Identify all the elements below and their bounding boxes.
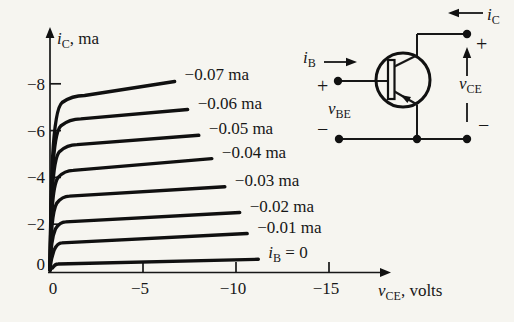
y-axis-title: iC, ma [57,29,99,51]
collector-lead [395,56,417,67]
curve-label: −0.04 ma [222,143,287,162]
minus-sign-left: − [317,118,328,140]
x-tick-label: −10 [220,279,247,298]
top-right-terminal-dot [463,30,471,38]
characteristic-curve [50,259,258,270]
transistor-base-bar [388,60,395,99]
curve-label: −0.03 ma [235,171,300,190]
vce-up-arrowhead-icon [463,47,471,58]
characteristic-curve [50,187,225,270]
y-tick-label: −4 [27,168,46,187]
bottom-right-terminal-dot [463,135,471,143]
x-tick-label: −15 [313,279,340,298]
bottom-left-terminal-dot [335,135,343,143]
curve-label: −0.07 ma [185,65,250,84]
base-terminal-dot [334,77,342,85]
y-tick-label: −6 [27,122,45,141]
y-origin-label: 0 [37,255,46,274]
transistor-circuit-diagram: iC iB + vBE − + vCE − [303,5,500,143]
plus-sign-top-right: + [476,33,487,55]
ic-label: iC [487,5,500,27]
curve-label: −0.02 ma [250,197,315,216]
transistor-characteristics-figure: −5−10−150−2−4−6−80iC, mavCE, volts−0.07 … [0,0,514,322]
x-origin-label: 0 [49,279,58,298]
curve-label: iB = 0 [268,243,307,265]
x-axis-arrowhead-icon [380,268,391,277]
y-tick-label: −2 [27,215,45,234]
figure-canvas: −5−10−150−2−4−6−80iC, mavCE, volts−0.07 … [0,0,514,322]
characteristic-curve [50,135,199,270]
y-tick-label: −8 [27,75,45,94]
x-tick-label: −5 [131,279,149,298]
vbe-label: vBE [328,99,351,121]
ic-left-arrowhead-icon [448,9,459,17]
curve-label: −0.06 ma [198,94,263,113]
x-axis-title: vCE, volts [378,281,442,303]
curve-label: −0.05 ma [209,119,274,138]
curve-label: −0.01 ma [257,218,322,237]
vce-label: vCE [459,74,482,96]
plus-sign-left: + [317,75,328,97]
ib-right-arrowhead-icon [346,58,357,66]
emitter-junction-dot [413,135,421,143]
ib-label: iB [303,48,316,70]
y-axis-arrowhead-icon [46,27,55,38]
minus-sign-bottom-right: − [478,114,489,136]
pnp-emitter-arrowhead [401,95,411,103]
